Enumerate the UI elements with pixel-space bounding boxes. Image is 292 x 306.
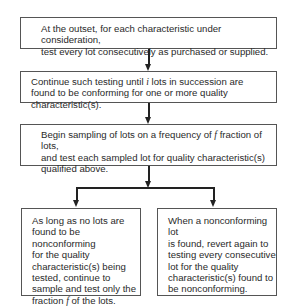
conforming-line4: characteristic(s) being	[32, 261, 140, 272]
nonconforming-line6: be nonconforming.	[168, 283, 276, 294]
conforming-line2: found to be nonconforming	[32, 226, 140, 249]
arrow-2-3-head	[145, 117, 151, 124]
branch-conforming-box: As long as no lots are found to be nonco…	[21, 208, 141, 296]
branch-nonconforming-box: When a nonconforming lot is found, rever…	[157, 208, 277, 296]
step3-line1: Begin sampling of lots on a frequency of…	[41, 129, 276, 152]
conforming-line1: As long as no lots are	[32, 215, 140, 226]
branch-right-head	[210, 200, 216, 207]
branch-left-head	[73, 200, 79, 207]
step2-line1: Continue such testing until i lots in su…	[31, 76, 276, 87]
step3-line3: qualified above.	[41, 163, 276, 174]
arrow-1-2-head	[145, 64, 151, 71]
step2-line2: found to be conforming for one or more q…	[31, 87, 276, 110]
conforming-line6: sample and test only the	[32, 283, 140, 294]
nonconforming-line2: is found, revert again to	[168, 238, 276, 249]
conforming-line7: fraction f of the lots.	[32, 295, 140, 306]
nonconforming-line3: testing every consecutive	[168, 249, 276, 260]
step2-box: Continue such testing until i lots in su…	[20, 71, 277, 103]
step1-line1: At the outset, for each characteristic u…	[41, 23, 276, 46]
nonconforming-line1: When a nonconforming lot	[168, 215, 276, 238]
step1-box: At the outset, for each characteristic u…	[20, 17, 277, 49]
nonconforming-line4: lot for the quality	[168, 261, 276, 272]
arrow-1-2-shaft	[148, 49, 150, 65]
step1-line2: test every lot consecutively as purchase…	[41, 46, 276, 57]
branch-right-shaft	[213, 187, 215, 201]
nonconforming-line5: characteristic(s) found to	[168, 272, 276, 283]
arrow-2-3-shaft	[148, 103, 150, 117]
branch-horizontal	[76, 187, 214, 189]
conforming-line5: tested, continue to	[32, 272, 140, 283]
step3-box: Begin sampling of lots on a frequency of…	[20, 124, 277, 166]
branch-left-shaft	[76, 187, 78, 201]
conforming-line3: for the quality	[32, 249, 140, 260]
step3-line2: and test each sampled lot for quality ch…	[41, 152, 276, 163]
